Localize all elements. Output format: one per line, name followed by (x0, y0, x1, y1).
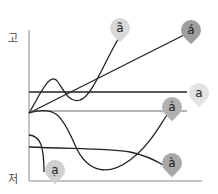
tone-label-nang: ạ (45, 160, 65, 180)
tone-label-nga: ã (110, 18, 130, 38)
tone-label-huyen: à (162, 153, 182, 173)
tone-label-sac: á (181, 20, 201, 40)
tone-line-a-nang (29, 135, 44, 172)
tone-label-hoi: ả (162, 97, 182, 117)
tone-label-ngang: a (189, 83, 209, 103)
